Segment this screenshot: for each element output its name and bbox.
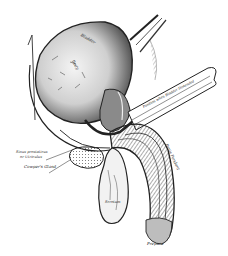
label-prepuce: Prepuce xyxy=(147,242,164,246)
bulb-shape xyxy=(69,147,103,168)
label-scrotum: Scrotum xyxy=(105,200,121,204)
label-cowpers-gland: Cowper's Gland xyxy=(24,165,56,169)
label-sinus-prostaticus: Sinus prostaticus xyxy=(16,150,48,154)
penis-erect-outline xyxy=(128,68,216,131)
illustration-drawing xyxy=(0,0,228,256)
anatomical-figure: Bladder Body Position when Bladder Diste… xyxy=(0,0,228,256)
label-utriculus: or Utriculus xyxy=(20,155,42,159)
